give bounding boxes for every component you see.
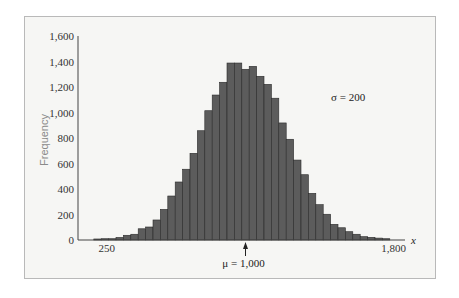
histogram-bar bbox=[345, 232, 352, 240]
histogram-bar bbox=[183, 169, 190, 240]
histogram-bars bbox=[94, 63, 390, 240]
histogram-bar bbox=[160, 209, 167, 240]
y-tick-label: 600 bbox=[58, 158, 75, 170]
x-axis-title: x bbox=[410, 234, 416, 246]
histogram-bar bbox=[279, 123, 286, 240]
y-tick-labels: 02004006008001,0001,2001,4001,600 bbox=[49, 30, 74, 246]
histogram-bar bbox=[331, 224, 338, 240]
x-tick-label: 250 bbox=[99, 242, 116, 254]
histogram-bar bbox=[316, 205, 323, 240]
histogram-bar bbox=[271, 98, 278, 240]
histogram-bar bbox=[249, 66, 256, 240]
histogram-bar bbox=[205, 111, 212, 240]
histogram-bar bbox=[131, 234, 138, 240]
histogram-bar bbox=[146, 227, 153, 240]
histogram-bar bbox=[220, 82, 227, 240]
histogram-bar bbox=[138, 229, 145, 240]
histogram-bar bbox=[286, 139, 293, 240]
y-tick-label: 1,600 bbox=[49, 30, 74, 42]
y-tick-label: 200 bbox=[58, 209, 75, 221]
histogram-chart: 02004006008001,0001,2001,4001,600 2501,8… bbox=[0, 0, 459, 298]
histogram-bar bbox=[242, 69, 249, 240]
histogram-bar bbox=[323, 214, 330, 240]
histogram-bar bbox=[338, 228, 345, 240]
histogram-bar bbox=[257, 76, 264, 240]
histogram-bar bbox=[234, 63, 241, 240]
histogram-bar bbox=[301, 175, 308, 240]
y-axis-title: Frequency bbox=[38, 114, 50, 166]
mean-arrow-icon bbox=[243, 242, 248, 256]
sigma-annotation: σ = 200 bbox=[331, 91, 366, 103]
histogram-bar bbox=[212, 95, 219, 240]
histogram-bar bbox=[227, 63, 234, 240]
histogram-bar bbox=[168, 196, 175, 240]
histogram-bar bbox=[308, 193, 315, 240]
y-tick-label: 1,400 bbox=[49, 56, 74, 68]
y-tick-label: 1,200 bbox=[49, 81, 74, 93]
y-tick-label: 1,000 bbox=[49, 107, 74, 119]
x-tick-label: 1,800 bbox=[381, 242, 406, 254]
y-tick-label: 800 bbox=[58, 132, 75, 144]
y-tick-label: 0 bbox=[69, 234, 75, 246]
histogram-bar bbox=[123, 235, 130, 240]
histogram-bar bbox=[190, 153, 197, 240]
mu-annotation: μ = 1,000 bbox=[222, 257, 265, 269]
histogram-bar bbox=[294, 160, 301, 240]
x-tick-labels: 2501,800 bbox=[99, 242, 407, 254]
histogram-bar bbox=[353, 234, 360, 240]
histogram-bar bbox=[197, 131, 204, 240]
histogram-bar bbox=[153, 220, 160, 240]
y-tick-label: 400 bbox=[58, 183, 75, 195]
histogram-bar bbox=[175, 182, 182, 240]
histogram-bar bbox=[264, 84, 271, 240]
